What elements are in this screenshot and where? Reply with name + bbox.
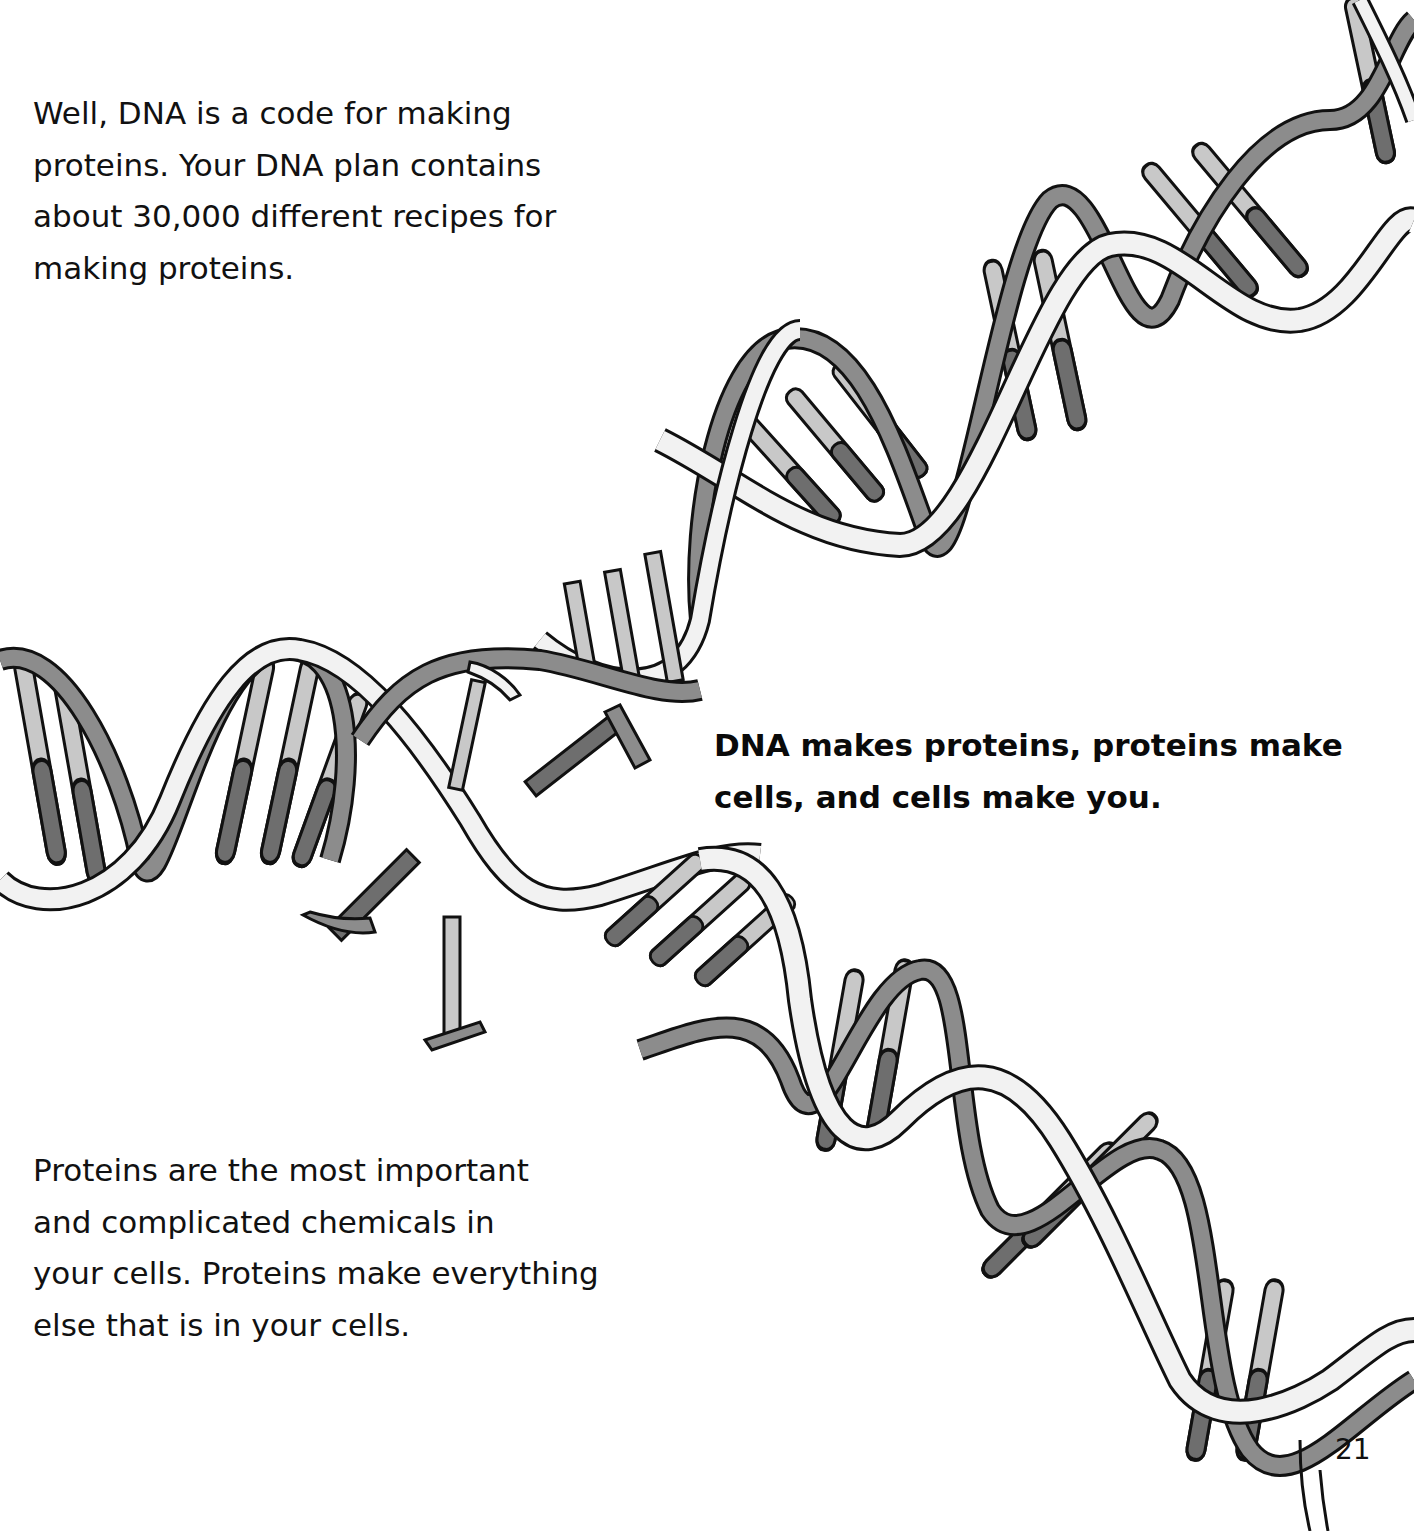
paragraph-line: and complicated chemicals in bbox=[33, 1197, 653, 1249]
proteins-paragraph: Proteins are the most important and comp… bbox=[33, 1145, 653, 1351]
paragraph-line: else that is in your cells. bbox=[33, 1300, 653, 1352]
paragraph-line: Proteins are the most important bbox=[33, 1145, 653, 1197]
intro-paragraph: Well, DNA is a code for making proteins.… bbox=[33, 88, 613, 294]
callout-line: cells, and cells make you. bbox=[714, 771, 1394, 823]
left-helix bbox=[0, 649, 760, 900]
upper-helix bbox=[540, 0, 1414, 682]
bold-callout: DNA makes proteins, proteins make cells,… bbox=[714, 719, 1394, 823]
callout-line: DNA makes proteins, proteins make bbox=[714, 719, 1394, 771]
paragraph-line: proteins. Your DNA plan contains bbox=[33, 140, 613, 192]
lower-helix bbox=[602, 851, 1414, 1531]
paragraph-line: Well, DNA is a code for making bbox=[33, 88, 613, 140]
paragraph-line: making proteins. bbox=[33, 243, 613, 295]
paragraph-line: about 30,000 different recipes for bbox=[33, 191, 613, 243]
paragraph-line: your cells. Proteins make everything bbox=[33, 1248, 653, 1300]
page-number: 21 bbox=[1335, 1433, 1371, 1466]
